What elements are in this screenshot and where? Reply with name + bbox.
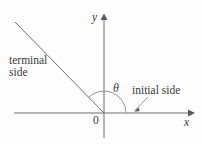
x-axis-label: x: [184, 116, 189, 128]
y-axis-label: y: [92, 11, 97, 23]
terminal-side-label-line2: side: [9, 66, 28, 78]
angle-arc: [89, 91, 126, 113]
terminal-side-label: terminalside: [9, 54, 47, 79]
origin-label: 0: [93, 114, 99, 126]
angle-standard-position-diagram: terminalside initial side θ 0 x y: [0, 0, 202, 144]
initial-side-label: initial side: [132, 84, 180, 96]
terminal-side-label-line1: terminal: [9, 54, 47, 66]
theta-angle-label: θ: [113, 82, 119, 95]
y-axis-arrowhead: [101, 14, 108, 21]
initial-side-leader-line: [136, 97, 149, 110]
